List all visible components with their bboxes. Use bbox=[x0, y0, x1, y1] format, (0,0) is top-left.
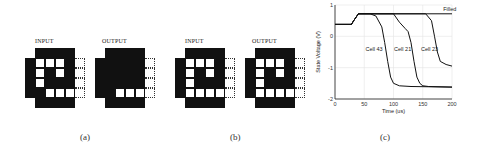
svg-text:150: 150 bbox=[418, 101, 427, 107]
output-label-b: OUTPUT bbox=[252, 38, 277, 44]
filled-cell bbox=[175, 58, 185, 68]
filled-cell bbox=[25, 78, 35, 88]
empty-cell bbox=[55, 58, 65, 68]
empty-cell bbox=[275, 68, 285, 78]
input-label-a: INPUT bbox=[35, 38, 54, 44]
filled-cell bbox=[175, 88, 185, 98]
filled-cell bbox=[115, 58, 125, 68]
svg-text:Filled: Filled bbox=[443, 6, 456, 12]
empty-cell bbox=[65, 88, 75, 98]
filled-cell bbox=[265, 78, 275, 88]
svg-text:State Voltage (V): State Voltage (V) bbox=[315, 31, 321, 73]
empty-cell bbox=[115, 88, 125, 98]
output-grid-b bbox=[245, 48, 315, 118]
caption-b: (b) bbox=[230, 132, 241, 142]
filled-cell bbox=[215, 58, 225, 68]
filled-cell bbox=[135, 58, 145, 68]
filled-cell bbox=[95, 58, 105, 68]
svg-text:0: 0 bbox=[330, 33, 333, 39]
svg-text:-1: -1 bbox=[328, 65, 333, 71]
empty-cell bbox=[285, 88, 295, 98]
filled-cell bbox=[215, 98, 225, 108]
filled-cell bbox=[275, 48, 285, 58]
svg-text:50: 50 bbox=[361, 101, 367, 107]
svg-text:-2: -2 bbox=[328, 96, 333, 102]
empty-cell bbox=[275, 88, 285, 98]
filled-cell bbox=[65, 78, 75, 88]
empty-cell bbox=[185, 68, 195, 78]
filled-cell bbox=[35, 48, 45, 58]
empty-cell bbox=[255, 78, 265, 88]
empty-cell bbox=[275, 58, 285, 68]
dotted-cell bbox=[225, 78, 235, 88]
filled-cell bbox=[285, 78, 295, 88]
filled-cell bbox=[135, 78, 145, 88]
filled-cell bbox=[125, 68, 135, 78]
empty-cell bbox=[255, 58, 265, 68]
filled-cell bbox=[245, 68, 255, 78]
filled-cell bbox=[195, 48, 205, 58]
empty-cell bbox=[185, 78, 195, 88]
dotted-cell bbox=[145, 78, 155, 88]
input-label-b: INPUT bbox=[185, 38, 204, 44]
empty-cell bbox=[195, 88, 205, 98]
filled-cell bbox=[285, 48, 295, 58]
dotted-cell bbox=[225, 58, 235, 68]
svg-text:Cell 21: Cell 21 bbox=[394, 46, 411, 52]
filled-cell bbox=[205, 48, 215, 58]
filled-cell bbox=[185, 48, 195, 58]
dotted-cell bbox=[295, 78, 305, 88]
empty-cell bbox=[45, 58, 55, 68]
dotted-cell bbox=[145, 88, 155, 98]
filled-cell bbox=[115, 68, 125, 78]
svg-text:100: 100 bbox=[389, 101, 398, 107]
empty-cell bbox=[35, 68, 45, 78]
filled-cell bbox=[115, 48, 125, 58]
filled-cell bbox=[135, 48, 145, 58]
filled-cell bbox=[265, 98, 275, 108]
filled-cell bbox=[195, 98, 205, 108]
filled-cell bbox=[35, 88, 45, 98]
filled-cell bbox=[25, 68, 35, 78]
filled-cell bbox=[65, 48, 75, 58]
filled-cell bbox=[65, 68, 75, 78]
filled-cell bbox=[45, 68, 55, 78]
output-grid-a bbox=[95, 48, 165, 118]
filled-cell bbox=[245, 78, 255, 88]
output-label-a: OUTPUT bbox=[102, 38, 127, 44]
filled-cell bbox=[95, 88, 105, 98]
filled-cell bbox=[25, 88, 35, 98]
empty-cell bbox=[185, 88, 195, 98]
filled-cell bbox=[265, 68, 275, 78]
filled-cell bbox=[285, 98, 295, 108]
filled-cell bbox=[55, 98, 65, 108]
filled-cell bbox=[195, 78, 205, 88]
dotted-cell bbox=[145, 68, 155, 78]
filled-cell bbox=[215, 68, 225, 78]
filled-cell bbox=[125, 58, 135, 68]
filled-cell bbox=[95, 78, 105, 88]
empty-cell bbox=[205, 58, 215, 68]
filled-cell bbox=[245, 88, 255, 98]
empty-cell bbox=[265, 58, 275, 68]
filled-cell bbox=[65, 98, 75, 108]
filled-cell bbox=[105, 58, 115, 68]
caption-a: (a) bbox=[80, 132, 90, 142]
empty-cell bbox=[45, 88, 55, 98]
filled-cell bbox=[185, 98, 195, 108]
dotted-cell bbox=[75, 58, 85, 68]
dotted-cell bbox=[295, 58, 305, 68]
filled-cell bbox=[275, 98, 285, 108]
input-grid-a bbox=[25, 48, 95, 118]
empty-cell bbox=[35, 78, 45, 88]
empty-cell bbox=[255, 68, 265, 78]
dotted-cell bbox=[75, 88, 85, 98]
filled-cell bbox=[275, 78, 285, 88]
filled-cell bbox=[265, 48, 275, 58]
filled-cell bbox=[105, 98, 115, 108]
svg-text:1: 1 bbox=[330, 2, 333, 8]
filled-cell bbox=[125, 98, 135, 108]
dotted-cell bbox=[75, 68, 85, 78]
empty-cell bbox=[125, 88, 135, 98]
empty-cell bbox=[55, 68, 65, 78]
